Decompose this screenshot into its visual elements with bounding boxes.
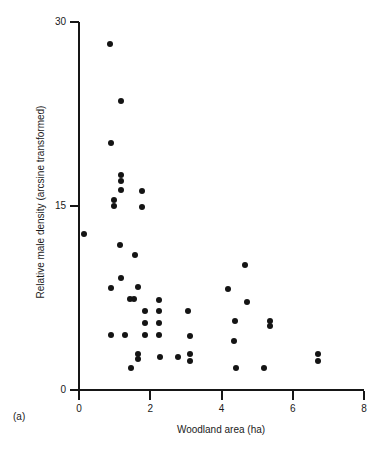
y-tick-label: 30 <box>40 17 66 27</box>
data-point <box>139 204 145 210</box>
x-tick-label: 2 <box>135 404 165 414</box>
data-point <box>233 365 239 371</box>
data-point <box>175 354 181 360</box>
data-point <box>267 318 273 324</box>
x-tick-label: 4 <box>207 404 237 414</box>
x-tick-label: 0 <box>64 404 94 414</box>
data-point <box>118 178 124 184</box>
y-tick-label-text: 0 <box>40 385 66 395</box>
x-tick-mark <box>78 391 80 400</box>
data-point <box>242 262 248 268</box>
y-tick-mark <box>70 21 79 23</box>
x-tick-mark <box>149 391 151 400</box>
data-point <box>108 285 114 291</box>
data-point <box>135 356 141 362</box>
data-point <box>135 351 141 357</box>
data-point <box>132 252 138 258</box>
data-point <box>127 296 133 302</box>
x-tick-label: 8 <box>349 404 379 414</box>
data-point <box>118 187 124 193</box>
data-point <box>231 338 237 344</box>
data-point <box>157 354 163 360</box>
data-point <box>139 188 145 194</box>
data-point <box>111 203 117 209</box>
data-point <box>156 297 162 303</box>
data-point <box>118 98 124 104</box>
data-point <box>118 275 124 281</box>
data-point <box>261 365 267 371</box>
data-point <box>315 358 321 364</box>
data-point <box>135 284 141 290</box>
data-point <box>225 286 231 292</box>
data-point <box>128 365 134 371</box>
data-point <box>187 333 193 339</box>
x-tick-mark <box>221 391 223 400</box>
data-point <box>122 332 128 338</box>
x-axis-title: Woodland area (ha) <box>78 424 364 436</box>
data-points-layer <box>0 0 388 449</box>
data-point <box>156 308 162 314</box>
data-point <box>131 296 137 302</box>
y-tick-label-text: 30 <box>40 17 66 27</box>
data-point <box>156 320 162 326</box>
data-point <box>185 308 191 314</box>
y-tick-mark <box>70 205 79 207</box>
data-point <box>315 351 321 357</box>
data-point <box>187 351 193 357</box>
x-tick-mark <box>363 391 365 400</box>
y-axis-title: Relative male density (arcsine transform… <box>35 77 47 327</box>
data-point <box>142 320 148 326</box>
data-point <box>187 358 193 364</box>
data-point <box>108 140 114 146</box>
data-point <box>118 172 124 178</box>
panel-label: (a) <box>13 411 25 423</box>
data-point <box>107 41 113 47</box>
data-point <box>81 231 87 237</box>
data-point <box>267 323 273 329</box>
scatter-plot-figure: 01530 02468 Woodland area (ha) Relative … <box>0 0 388 449</box>
x-tick-mark <box>292 391 294 400</box>
x-tick-label: 6 <box>278 404 308 414</box>
data-point <box>156 332 162 338</box>
data-point <box>142 332 148 338</box>
data-point <box>111 197 117 203</box>
y-tick-label: 0 <box>40 385 66 395</box>
data-point <box>232 318 238 324</box>
data-point <box>117 242 123 248</box>
data-point <box>142 308 148 314</box>
data-point <box>244 299 250 305</box>
data-point <box>108 332 114 338</box>
